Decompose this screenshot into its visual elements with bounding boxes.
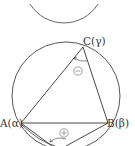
- geometry-diagram: C(γ) A(α) B(β): [0, 0, 135, 146]
- segment-b-d: [66, 123, 108, 146]
- triangle-abc: [21, 47, 108, 123]
- top-circle-arc: [30, 4, 98, 23]
- angle-arc-c: [74, 58, 87, 61]
- segment-a-d: [21, 123, 52, 146]
- label-a: A(α): [0, 117, 23, 129]
- label-c: C(γ): [83, 35, 106, 47]
- label-b: B(β): [107, 117, 129, 129]
